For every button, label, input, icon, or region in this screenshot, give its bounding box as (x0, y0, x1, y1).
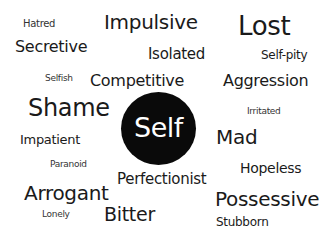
word-hatred: Hatred (23, 19, 55, 29)
word-isolated: Isolated (148, 47, 205, 62)
word-paranoid: Paranoid (50, 160, 87, 169)
word-lost: Lost (238, 13, 290, 39)
self-circle: Self (121, 92, 196, 165)
self-label: Self (134, 114, 183, 141)
word-impulsive: Impulsive (104, 12, 198, 32)
word-lonely: Lonely (42, 210, 70, 219)
word-irritated: Irritated (247, 107, 281, 116)
word-hopeless: Hopeless (240, 161, 301, 175)
word-possessive: Possessive (215, 189, 319, 209)
word-shame: Shame (28, 96, 110, 120)
word-stubborn: Stubborn (216, 216, 268, 228)
word-self-pity: Self-pity (261, 49, 307, 61)
word-perfectionist: Perfectionist (117, 172, 206, 187)
word-mad: Mad (216, 127, 257, 147)
word-bitter: Bitter (104, 205, 155, 224)
word-selfish: Selfish (45, 74, 73, 83)
word-impatient: Impatient (20, 133, 80, 146)
word-arrogant: Arrogant (24, 183, 109, 203)
word-secretive: Secretive (15, 39, 87, 55)
word-competitive: Competitive (90, 73, 184, 89)
word-aggression: Aggression (223, 73, 308, 89)
